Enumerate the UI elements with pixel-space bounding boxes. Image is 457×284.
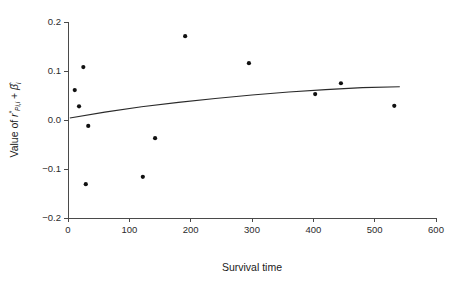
axis-labels-layer: 0100200300400500600−0.2−0.10.00.10.2Surv… [8, 16, 444, 273]
data-point [153, 136, 157, 140]
y-tick-label: 0.1 [48, 65, 61, 76]
x-tick-label: 200 [183, 224, 199, 235]
data-point [86, 124, 90, 128]
x-tick-label: 600 [428, 224, 444, 235]
data-point [313, 92, 317, 96]
y-axis-title-prefix: Value of [8, 117, 20, 158]
data-point [339, 81, 343, 85]
y-axis-title-text: Value of r*Pi,i + β̂i [8, 82, 22, 158]
y-axis-title-beta-subscript: i [15, 82, 22, 84]
data-point [77, 104, 81, 108]
data-point [84, 182, 88, 186]
x-tick-label: 400 [305, 224, 321, 235]
y-tick-label: −0.2 [42, 212, 61, 223]
axes-layer [64, 22, 436, 222]
data-point [141, 175, 145, 179]
fit-curve-path [70, 87, 400, 118]
y-tick-label: 0.2 [48, 16, 61, 27]
y-tick-label: −0.1 [42, 163, 61, 174]
x-tick-label: 100 [121, 224, 137, 235]
data-point [392, 104, 396, 108]
plot-canvas: 0100200300400500600−0.2−0.10.00.10.2Surv… [0, 0, 457, 284]
scatter-plot-figure: 0100200300400500600−0.2−0.10.00.10.2Surv… [0, 0, 457, 284]
data-point [81, 65, 85, 69]
y-axis-title: Value of r*Pi,i + β̂i [8, 82, 22, 158]
y-axis-title-operator: + [8, 90, 20, 102]
fit-curve-layer [70, 87, 400, 118]
x-tick-label: 500 [367, 224, 383, 235]
x-tick-label: 0 [65, 224, 70, 235]
data-point [73, 88, 77, 92]
data-point [183, 34, 187, 38]
y-tick-label: 0.0 [48, 114, 61, 125]
x-tick-label: 300 [244, 224, 260, 235]
data-point [247, 61, 251, 65]
x-axis-title: Survival time [222, 261, 282, 273]
